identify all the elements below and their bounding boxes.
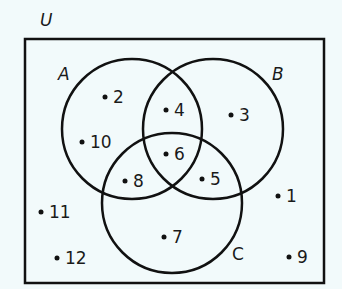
dot-marker bbox=[103, 95, 108, 100]
dot-marker bbox=[287, 255, 292, 260]
element-label: 10 bbox=[90, 134, 112, 151]
element-label: 3 bbox=[239, 107, 250, 124]
set-c-label: C bbox=[232, 246, 244, 263]
element-5: 5 bbox=[202, 171, 221, 188]
element-8: 8 bbox=[125, 173, 144, 190]
element-label: 11 bbox=[49, 204, 71, 221]
venn-diagram: U A B C 2 10 4 3 6 8 5 7 1 11 1 bbox=[0, 0, 342, 289]
element-4: 4 bbox=[166, 102, 185, 119]
set-a-label: A bbox=[58, 66, 70, 83]
venn-shapes bbox=[0, 0, 342, 289]
element-11: 11 bbox=[41, 204, 71, 221]
element-label: 6 bbox=[174, 146, 185, 163]
element-label: 2 bbox=[113, 89, 124, 106]
element-12: 12 bbox=[57, 250, 87, 267]
element-label: 1 bbox=[286, 188, 297, 205]
dot-marker bbox=[164, 108, 169, 113]
dot-marker bbox=[123, 179, 128, 184]
element-label: 12 bbox=[65, 250, 87, 267]
dot-marker bbox=[55, 256, 60, 261]
element-label: 9 bbox=[297, 249, 308, 266]
element-label: 5 bbox=[210, 171, 221, 188]
dot-marker bbox=[200, 177, 205, 182]
element-label: 8 bbox=[133, 173, 144, 190]
element-7: 7 bbox=[164, 229, 183, 246]
dot-marker bbox=[162, 235, 167, 240]
dot-marker bbox=[80, 140, 85, 145]
element-6: 6 bbox=[166, 146, 185, 163]
element-9: 9 bbox=[289, 249, 308, 266]
dot-marker bbox=[229, 113, 234, 118]
element-label: 4 bbox=[174, 102, 185, 119]
dot-marker bbox=[39, 210, 44, 215]
element-label: 7 bbox=[172, 229, 183, 246]
dot-marker bbox=[164, 152, 169, 157]
element-1: 1 bbox=[278, 188, 297, 205]
element-10: 10 bbox=[82, 134, 112, 151]
set-b-label: B bbox=[272, 66, 284, 83]
element-3: 3 bbox=[231, 107, 250, 124]
dot-marker bbox=[276, 194, 281, 199]
universal-set-label: U bbox=[40, 12, 52, 29]
element-2: 2 bbox=[105, 89, 124, 106]
